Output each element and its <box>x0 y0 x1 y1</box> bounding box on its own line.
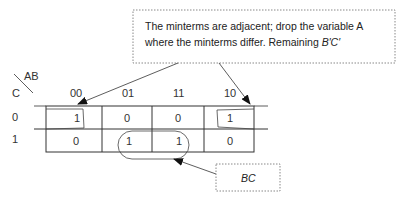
column-header-00: 00 <box>70 87 82 99</box>
cell-c0-ab11: 0 <box>175 112 181 124</box>
callout-top-line2: where the minterms differ. Remaining B′C… <box>144 36 341 48</box>
cell-c1-ab00: 0 <box>73 135 79 147</box>
callout-bc-text: BC <box>241 172 256 184</box>
arrow-to-bc-group <box>174 159 216 174</box>
callout-adjacent-minterms: The minterms are adjacent; drop the vari… <box>133 10 395 63</box>
label-c: C <box>12 87 20 99</box>
cell-c0-ab10: 1 <box>227 112 233 124</box>
callout-top-line1: The minterms are adjacent; drop the vari… <box>145 20 363 32</box>
kmap-diagram: The minterms are adjacent; drop the vari… <box>0 0 406 207</box>
label-ab: AB <box>24 70 39 82</box>
callout-bc: BC <box>216 164 280 191</box>
callout-top-line2-prefix: where the minterms differ. Remaining <box>144 36 322 48</box>
column-header-01: 01 <box>122 87 134 99</box>
column-header-11: 11 <box>173 87 184 99</box>
cell-c1-ab01: 1 <box>126 135 132 147</box>
cell-c1-ab10: 0 <box>227 135 233 147</box>
cell-c1-ab11: 1 <box>176 135 182 147</box>
cell-c0-ab01: 0 <box>124 112 130 124</box>
row-header-1: 1 <box>12 133 18 145</box>
column-header-10: 10 <box>224 87 236 99</box>
row-header-0: 0 <box>12 111 18 123</box>
group-loop-bc-prime-right <box>217 109 254 129</box>
cell-c0-ab00: 1 <box>74 112 80 124</box>
callout-top-remaining-term: B′C′ <box>322 36 342 48</box>
